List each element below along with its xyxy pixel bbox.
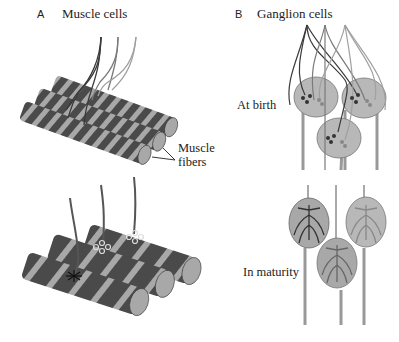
muscle-fibers-label-line1: Muscle: [178, 141, 215, 155]
muscle-fibers-label-line2: fibers: [178, 155, 215, 169]
panel-a-title: Muscle cells: [62, 6, 127, 22]
panel-b-title: Ganglion cells: [257, 6, 332, 22]
stage-label-at-birth: At birth: [237, 98, 276, 112]
stage-label-in-maturity: In maturity: [243, 265, 299, 279]
muscle-fibers-label: Muscle fibers: [178, 141, 215, 169]
panel-b-letter: B: [235, 8, 242, 20]
muscle-fibers-top: [19, 75, 180, 166]
panel-a-letter: A: [37, 8, 44, 20]
diagram-canvas: [0, 0, 399, 342]
ganglion-cells-maturity: [289, 185, 386, 325]
ganglion-cells-birth: [289, 25, 386, 170]
muscle-fibers-bottom: [21, 224, 205, 318]
